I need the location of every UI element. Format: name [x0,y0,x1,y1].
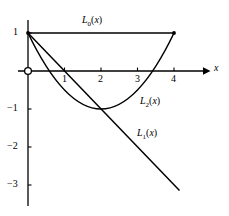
x-tick-label-1: 1 [62,74,67,84]
figure-container: 1 −1 −2 −3 1 2 3 4 x L0(x) L2(x) L1(x) [0,0,229,216]
curve-l1 [28,33,180,191]
knot-left-marker [26,31,30,35]
curve-label-l2-var: x [152,95,156,106]
x-axis-arrowhead [203,67,211,75]
curve-label-l0-arg: (x) [91,14,102,25]
y-tick-label-1: 1 [13,27,18,37]
x-axis-label: x [214,63,218,73]
curve-label-l2: L2(x) [140,96,160,109]
origin-marker [25,68,32,75]
x-tick-label-3: 3 [135,74,140,84]
curve-label-l1: L1(x) [137,128,157,141]
curve-label-l1-var: x [149,127,153,138]
y-tick-label-neg3: −3 [7,179,18,189]
curve-label-l0-var: x [94,14,98,25]
x-tick-label-2: 2 [98,74,103,84]
axis-group [18,20,211,206]
plot-svg [0,0,229,216]
y-tick-label-neg1: −1 [7,103,18,113]
curve-label-l0: L0(x) [82,15,102,28]
x-tick-label-4: 4 [171,74,176,84]
y-tick-label-neg2: −2 [7,141,18,151]
curve-label-l1-arg: (x) [146,127,157,138]
curve-label-l2-arg: (x) [149,95,160,106]
knot-right-marker [172,31,176,35]
